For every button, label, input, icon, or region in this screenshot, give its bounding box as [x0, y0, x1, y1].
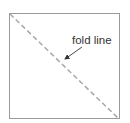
fold-line-label: fold line — [72, 34, 112, 46]
fold-diagram: fold line — [0, 0, 130, 123]
